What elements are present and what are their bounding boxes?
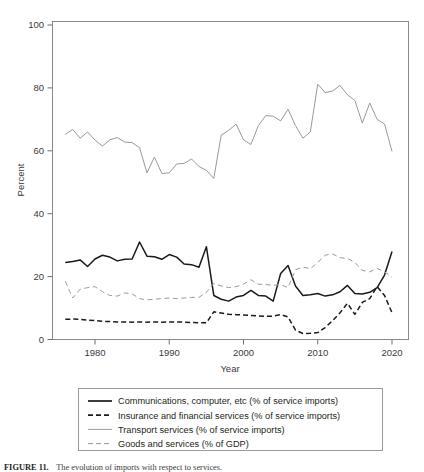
chart-figure: 020406080100 19801990200020102020 Percen… [0, 0, 424, 472]
series-line-3 [65, 254, 392, 300]
legend-label-0: Communications, computer, etc (% of serv… [118, 396, 338, 406]
series-line-1 [65, 287, 392, 334]
figure-caption: FIGURE 11. The evolution of imports with… [4, 456, 222, 472]
figure-container: 020406080100 19801990200020102020 Percen… [0, 0, 424, 472]
y-tick-label-40: 40 [33, 208, 44, 219]
y-axis-title: Percent [15, 163, 26, 196]
x-axis-tick-labels: 19801990200020102020 [84, 347, 402, 358]
x-axis-ticks [95, 340, 392, 345]
series-line-2 [65, 84, 392, 178]
x-tick-label-2010: 2010 [307, 347, 328, 358]
series-group [65, 84, 392, 333]
legend-label-3: Goods and services (% of GDP) [118, 439, 249, 449]
y-tick-label-60: 60 [33, 145, 44, 156]
y-tick-label-80: 80 [33, 82, 44, 93]
legend: Communications, computer, etc (% of serv… [79, 389, 383, 451]
y-tick-label-100: 100 [28, 19, 44, 30]
y-tick-label-20: 20 [33, 271, 44, 282]
x-tick-label-1990: 1990 [159, 347, 180, 358]
series-line-0 [65, 242, 392, 301]
y-axis-ticks [48, 25, 53, 340]
x-axis-title: Year [220, 363, 239, 374]
x-tick-label-2020: 2020 [381, 347, 402, 358]
caption-body: The evolution of imports with respect to… [56, 463, 222, 472]
legend-label-2: Transport services (% of service imports… [118, 425, 285, 435]
y-axis-tick-labels: 020406080100 [28, 19, 44, 345]
legend-label-1: Insurance and financial services (% of s… [118, 411, 340, 421]
plot-frame [53, 22, 409, 340]
x-tick-label-1980: 1980 [84, 347, 105, 358]
y-tick-label-0: 0 [39, 334, 44, 345]
x-tick-label-2000: 2000 [233, 347, 254, 358]
caption-label: FIGURE 11. [4, 463, 49, 472]
